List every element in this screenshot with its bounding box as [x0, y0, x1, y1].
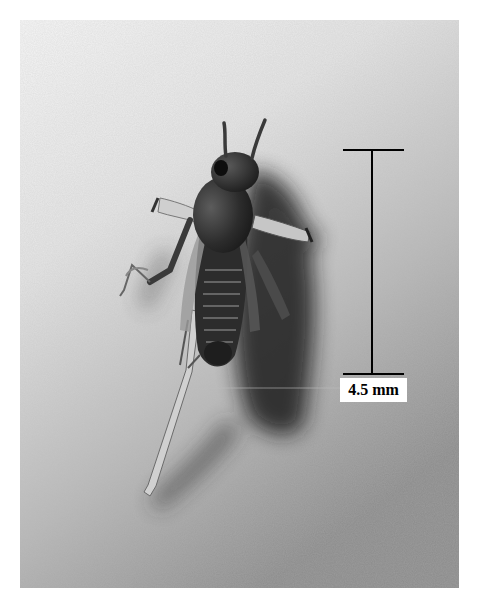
specimen-photo — [20, 20, 459, 588]
eye — [214, 160, 228, 176]
scale-bar-label: 4.5 mm — [340, 378, 407, 402]
antenna-left — [224, 123, 226, 156]
